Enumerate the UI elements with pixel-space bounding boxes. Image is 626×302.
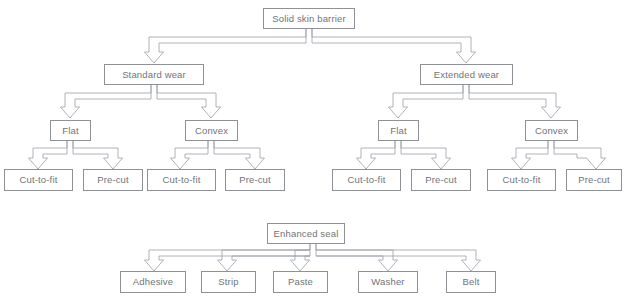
node-solid-skin-barrier[interactable]: Solid skin barrier [263, 8, 355, 29]
node-belt[interactable]: Belt [446, 271, 496, 293]
node-label: Belt [463, 277, 480, 287]
node-label: Pre-cut [239, 175, 271, 185]
node-washer[interactable]: Washer [358, 271, 418, 293]
node-ew-convex-cut-to-fit[interactable]: Cut-to-fit [487, 169, 556, 191]
node-label: Convex [195, 126, 228, 136]
node-sw-convex-cut-to-fit[interactable]: Cut-to-fit [147, 169, 216, 191]
node-label: Flat [390, 126, 406, 136]
node-label: Solid skin barrier [272, 14, 345, 24]
node-label: Paste [288, 277, 313, 287]
node-label: Flat [62, 126, 78, 136]
node-label: Washer [371, 277, 404, 287]
node-label: Pre-cut [425, 175, 457, 185]
node-extended-wear-convex[interactable]: Convex [525, 120, 578, 141]
flowchart-canvas: Solid skin barrier Standard wear Extende… [0, 0, 626, 302]
node-label: Cut-to-fit [503, 175, 541, 185]
node-enhanced-seal[interactable]: Enhanced seal [267, 223, 345, 244]
node-label: Pre-cut [578, 175, 610, 185]
node-extended-wear[interactable]: Extended wear [420, 64, 513, 85]
node-label: Extended wear [434, 70, 499, 80]
node-sw-convex-pre-cut[interactable]: Pre-cut [225, 169, 285, 191]
connector-layer [0, 0, 626, 302]
node-sw-flat-cut-to-fit[interactable]: Cut-to-fit [4, 169, 73, 191]
node-label: Pre-cut [97, 175, 129, 185]
node-label: Enhanced seal [274, 229, 339, 239]
node-standard-wear-convex[interactable]: Convex [185, 120, 238, 141]
node-label: Cut-to-fit [348, 175, 386, 185]
node-label: Strip [218, 277, 238, 287]
node-label: Cut-to-fit [20, 175, 58, 185]
node-ew-flat-pre-cut[interactable]: Pre-cut [411, 169, 471, 191]
node-sw-flat-pre-cut[interactable]: Pre-cut [83, 169, 143, 191]
node-adhesive[interactable]: Adhesive [120, 271, 186, 293]
node-paste[interactable]: Paste [273, 271, 328, 293]
node-standard-wear[interactable]: Standard wear [104, 64, 204, 85]
node-label: Convex [535, 126, 568, 136]
node-label: Standard wear [122, 70, 186, 80]
node-standard-wear-flat[interactable]: Flat [50, 120, 91, 141]
node-label: Adhesive [133, 277, 173, 287]
node-ew-convex-pre-cut[interactable]: Pre-cut [566, 169, 622, 191]
node-ew-flat-cut-to-fit[interactable]: Cut-to-fit [332, 169, 401, 191]
node-label: Cut-to-fit [163, 175, 201, 185]
node-extended-wear-flat[interactable]: Flat [378, 120, 419, 141]
node-strip[interactable]: Strip [201, 271, 256, 293]
